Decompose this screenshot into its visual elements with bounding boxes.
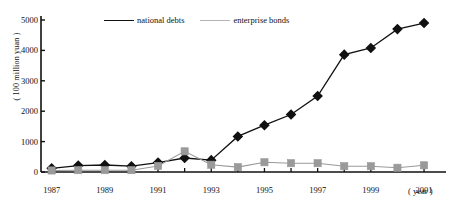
data-point bbox=[287, 110, 296, 119]
data-point bbox=[208, 161, 215, 168]
axis-lines bbox=[41, 16, 446, 172]
data-point bbox=[420, 19, 429, 28]
data-point bbox=[314, 160, 321, 167]
plot-area bbox=[0, 0, 451, 204]
data-point bbox=[340, 50, 349, 59]
data-point bbox=[313, 92, 322, 101]
data-point bbox=[75, 167, 82, 174]
data-point bbox=[420, 162, 427, 169]
data-point bbox=[128, 167, 135, 174]
data-point bbox=[287, 160, 294, 167]
data-point bbox=[367, 44, 376, 53]
data-point bbox=[260, 121, 269, 130]
data-series-layer bbox=[47, 19, 428, 174]
data-point bbox=[154, 162, 161, 169]
data-point bbox=[394, 164, 401, 171]
data-point bbox=[234, 164, 241, 171]
data-point bbox=[181, 148, 188, 155]
data-point bbox=[48, 167, 55, 174]
data-point bbox=[261, 159, 268, 166]
data-point bbox=[341, 163, 348, 170]
chart-figure: ( 100 million yuan ) 0100020003000400050… bbox=[0, 0, 451, 204]
data-point bbox=[101, 167, 108, 174]
axis-ticks bbox=[41, 20, 424, 172]
data-point bbox=[393, 25, 402, 34]
data-point bbox=[367, 163, 374, 170]
